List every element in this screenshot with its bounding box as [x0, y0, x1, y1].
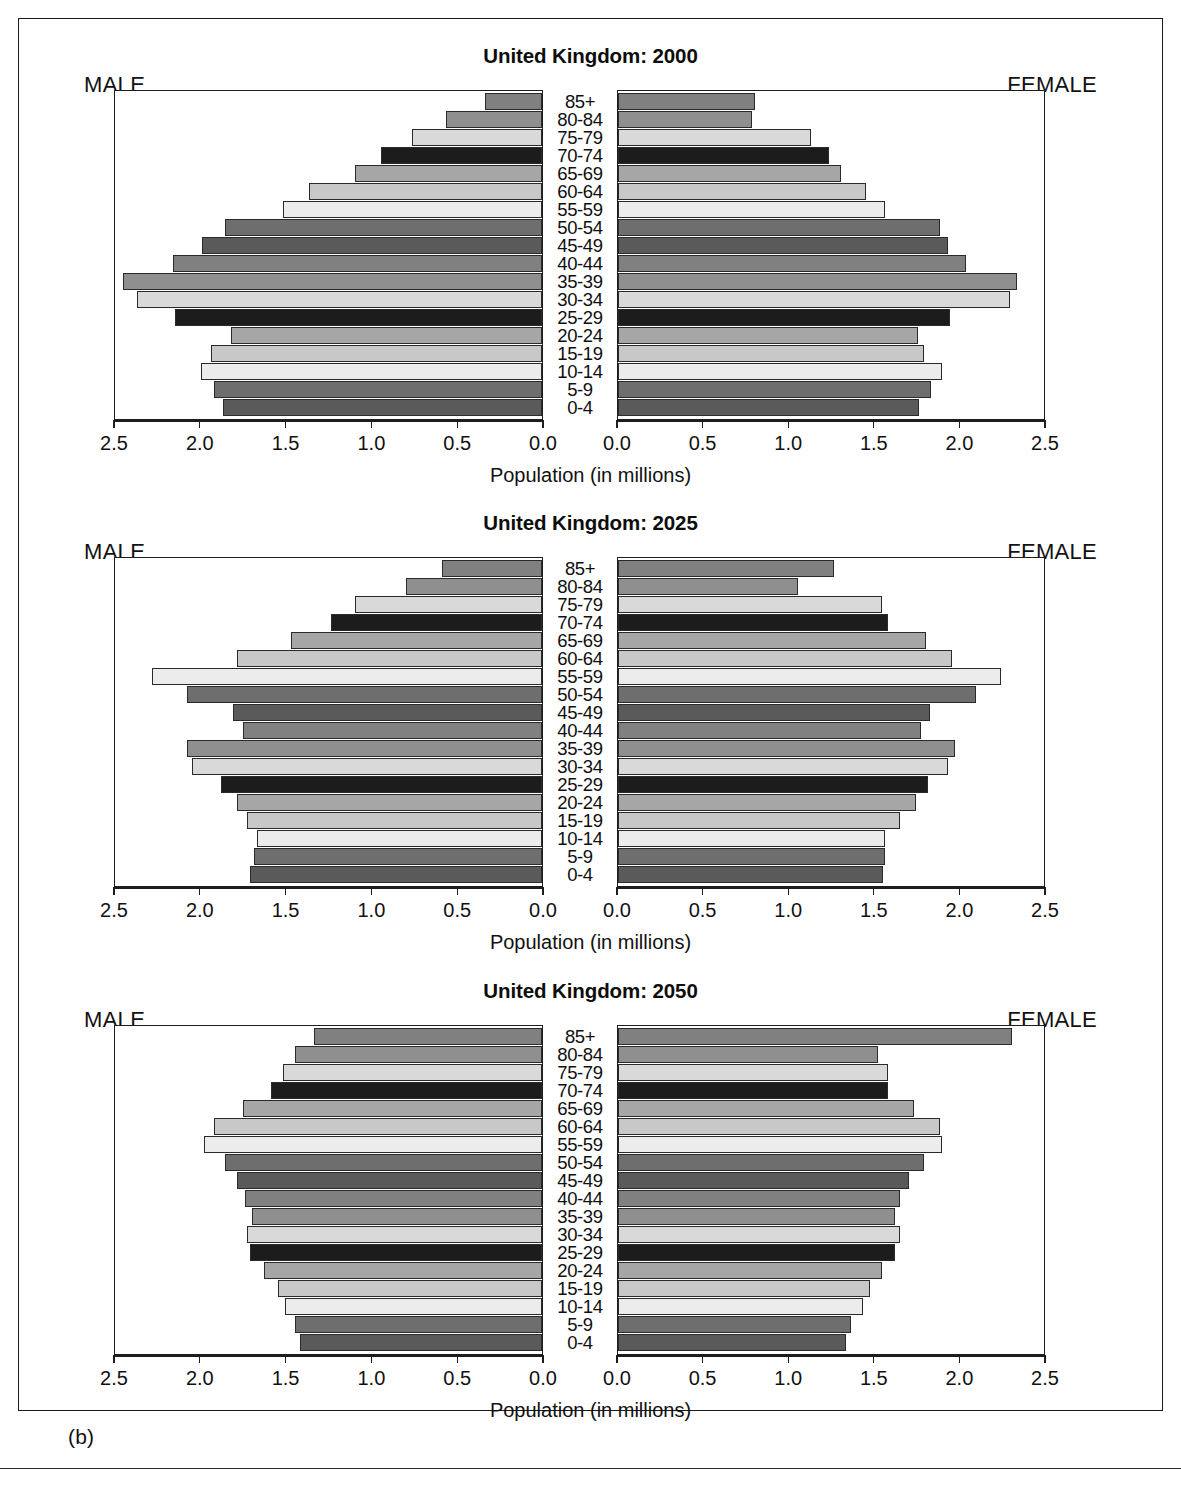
bar-female-50-54 — [618, 686, 976, 703]
bar-male-50-54 — [225, 1154, 542, 1171]
female-axis-tick — [1044, 887, 1045, 895]
bar-female-70-74 — [618, 614, 888, 631]
female-axis-tick — [788, 420, 789, 428]
bar-female-0-4 — [618, 866, 883, 883]
bar-male-0-4 — [300, 1334, 542, 1351]
bar-male-50-54 — [225, 219, 542, 236]
bar-female-15-19 — [618, 345, 924, 362]
bar-female-30-34 — [618, 291, 1010, 308]
male-axis-tick-label: 0.0 — [529, 899, 557, 922]
female-axis-tick — [788, 1355, 789, 1363]
panel-title: United Kingdom: 2000 — [0, 44, 1181, 68]
male-axis-tick — [113, 420, 114, 428]
bar-female-15-19 — [618, 1280, 870, 1297]
bar-female-80-84 — [618, 1046, 878, 1063]
female-axis-tick — [959, 887, 960, 895]
bar-female-20-24 — [618, 794, 916, 811]
male-axis-tick — [285, 887, 286, 895]
female-axis-tick-label: 1.0 — [774, 1367, 802, 1390]
male-axis-tick-label: 2.0 — [186, 1367, 214, 1390]
bar-female-60-64 — [618, 183, 866, 200]
x-axis-title: Population (in millions) — [0, 1399, 1181, 1422]
bar-male-80-84 — [295, 1046, 542, 1063]
bar-male-40-44 — [243, 722, 542, 739]
bar-male-55-59 — [204, 1136, 542, 1153]
bar-female-30-34 — [618, 1226, 900, 1243]
female-plot-area — [617, 90, 1045, 420]
male-axis-tick — [542, 887, 543, 895]
bar-female-65-69 — [618, 632, 926, 649]
bar-male-65-69 — [243, 1100, 542, 1117]
bar-female-40-44 — [618, 255, 966, 272]
female-axis-tick-label: 2.0 — [945, 1367, 973, 1390]
bar-male-45-49 — [202, 237, 542, 254]
bar-female-50-54 — [618, 1154, 924, 1171]
male-axis-tick-label: 0.5 — [443, 1367, 471, 1390]
bar-female-70-74 — [618, 1082, 888, 1099]
bar-male-80-84 — [446, 111, 542, 128]
male-axis-tick-label: 2.5 — [100, 432, 128, 455]
bar-female-0-4 — [618, 1334, 846, 1351]
female-axis-tick — [959, 1355, 960, 1363]
bar-female-35-39 — [618, 273, 1017, 290]
female-axis-tick-label: 0.5 — [689, 432, 717, 455]
bar-male-60-64 — [214, 1118, 542, 1135]
bar-female-25-29 — [618, 309, 950, 326]
age-group-label: 0-4 — [543, 1332, 617, 1354]
male-axis-tick-label: 1.0 — [357, 899, 385, 922]
male-axis-tick — [542, 420, 543, 428]
bar-female-80-84 — [618, 578, 798, 595]
female-axis-tick-label: 1.5 — [860, 1367, 888, 1390]
bar-female-65-69 — [618, 165, 841, 182]
male-axis-tick — [457, 420, 458, 428]
female-axis-tick-label: 2.0 — [945, 899, 973, 922]
male-x-axis-line — [114, 1355, 543, 1357]
bar-female-75-79 — [618, 1064, 888, 1081]
male-axis-tick — [285, 420, 286, 428]
female-axis-tick-label: 1.5 — [860, 432, 888, 455]
female-axis-tick — [788, 887, 789, 895]
bar-male-75-79 — [283, 1064, 542, 1081]
bar-female-60-64 — [618, 1118, 940, 1135]
bar-female-35-39 — [618, 1208, 895, 1225]
female-axis-tick — [702, 420, 703, 428]
bar-male-10-14 — [257, 830, 542, 847]
bar-male-75-79 — [412, 129, 542, 146]
age-group-label: 0-4 — [543, 864, 617, 886]
male-axis-tick — [457, 1355, 458, 1363]
bar-male-70-74 — [331, 614, 542, 631]
bar-female-50-54 — [618, 219, 940, 236]
bar-male-75-79 — [355, 596, 542, 613]
panel-title: United Kingdom: 2025 — [0, 511, 1181, 535]
x-axis-title: Population (in millions) — [0, 931, 1181, 954]
bar-female-55-59 — [618, 1136, 942, 1153]
bar-male-10-14 — [285, 1298, 542, 1315]
female-axis-tick-label: 0.0 — [603, 1367, 631, 1390]
bar-male-65-69 — [355, 165, 542, 182]
bar-female-5-9 — [618, 848, 885, 865]
female-x-axis-line — [617, 1355, 1045, 1357]
female-axis-tick-label: 1.0 — [774, 432, 802, 455]
male-axis-tick — [285, 1355, 286, 1363]
male-axis-tick-label: 2.0 — [186, 899, 214, 922]
female-axis-tick-label: 2.5 — [1031, 899, 1059, 922]
female-axis-tick-label: 0.0 — [603, 432, 631, 455]
bar-female-20-24 — [618, 327, 918, 344]
female-axis-tick — [959, 420, 960, 428]
bar-female-25-29 — [618, 776, 928, 793]
female-axis-tick-label: 1.5 — [860, 899, 888, 922]
bar-male-20-24 — [237, 794, 542, 811]
x-axis-title: Population (in millions) — [0, 464, 1181, 487]
bar-female-25-29 — [618, 1244, 895, 1261]
bar-female-0-4 — [618, 399, 919, 416]
figure-page: United Kingdom: 2000MALEFEMALE85+80-8475… — [0, 0, 1181, 1497]
male-axis-tick — [199, 1355, 200, 1363]
bar-male-5-9 — [295, 1316, 542, 1333]
figure-part-label: (b) — [68, 1425, 94, 1449]
male-plot-area — [114, 90, 543, 420]
bar-female-70-74 — [618, 147, 829, 164]
bar-male-85+ — [314, 1028, 542, 1045]
bar-female-55-59 — [618, 668, 1001, 685]
female-axis-tick — [616, 420, 617, 428]
bar-female-30-34 — [618, 758, 948, 775]
